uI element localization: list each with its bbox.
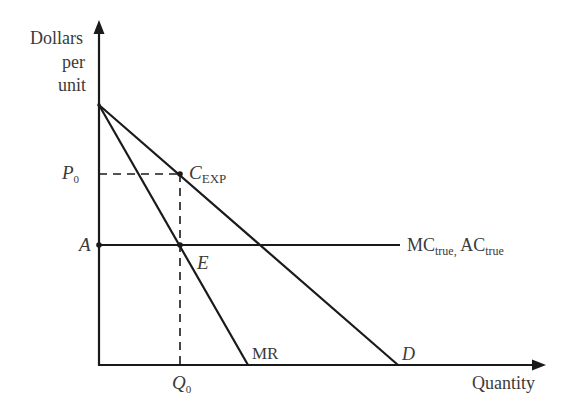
point-e	[177, 242, 183, 248]
y-axis-label-line2: per	[62, 53, 85, 71]
e-label: E	[197, 253, 209, 272]
p0-label: P0	[62, 163, 79, 185]
d-label: D	[402, 345, 415, 363]
p0-sub: 0	[74, 173, 80, 185]
y-axis-label-line1: Dollars	[30, 29, 83, 47]
a-label: A	[79, 235, 91, 254]
y-axis-label-line3: unit	[58, 76, 86, 94]
marginal-revenue-curve	[99, 105, 248, 365]
q0-sub: 0	[186, 383, 192, 395]
point-a	[96, 242, 102, 248]
x-axis-arrow-icon	[532, 360, 546, 371]
mc-main: MC	[407, 235, 435, 255]
demand-curve	[99, 105, 398, 365]
ac-sub: true	[485, 244, 504, 258]
point-c-exp	[177, 171, 183, 177]
mc-ac-label: MCtrue, ACtrue	[407, 236, 504, 257]
x-axis-label: Quantity	[472, 374, 535, 392]
q0-label: Q0	[172, 373, 191, 395]
c-exp-label: CEXP	[189, 163, 226, 185]
mc-sub: true,	[435, 244, 457, 258]
p0-main: P	[62, 162, 74, 183]
mr-label: MR	[252, 345, 278, 362]
c-exp-main: C	[189, 162, 202, 183]
c-exp-sub: EXP	[202, 171, 227, 186]
ac-main: AC	[460, 235, 485, 255]
q0-main: Q	[172, 372, 186, 393]
chart-canvas	[0, 0, 572, 408]
point-intercept	[97, 103, 101, 107]
y-axis-arrow-icon	[94, 20, 105, 34]
